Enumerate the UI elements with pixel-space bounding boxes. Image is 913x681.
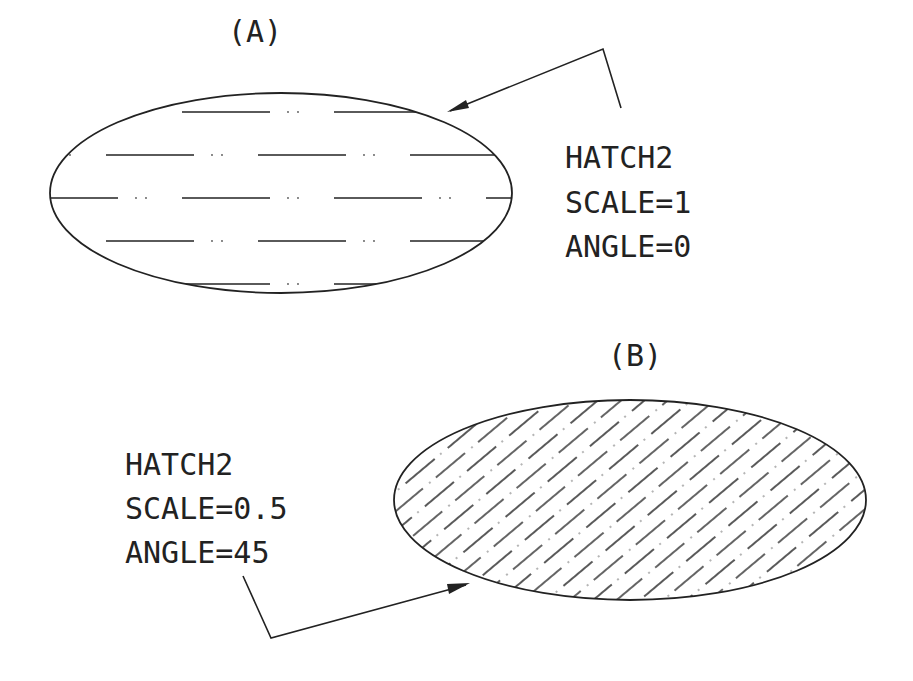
figure-b: (B) HATCH2 SCALE=0.5 ANGLE=45: [125, 338, 870, 638]
label-a: HATCH2 SCALE=1 ANGLE=0: [565, 140, 691, 264]
label-b-line-3: ANGLE=45: [125, 535, 270, 570]
hatch-fill-a: [45, 90, 520, 300]
hatch-diagram: (A) HATCH2 SCALE=1 ANGLE=0 (B) HATCH2 SC…: [0, 0, 913, 681]
label-b-line-1: HATCH2: [125, 447, 233, 482]
label-a-line-1: HATCH2: [565, 140, 673, 175]
label-b: HATCH2 SCALE=0.5 ANGLE=45: [125, 447, 288, 570]
label-a-line-3: ANGLE=0: [565, 229, 691, 264]
leader-arrow-b: [243, 576, 470, 638]
figure-a: (A) HATCH2 SCALE=1 ANGLE=0: [45, 14, 691, 300]
hatch-fill-b: [390, 395, 870, 605]
label-a-line-2: SCALE=1: [565, 185, 691, 220]
figure-b-title: (B): [608, 338, 662, 373]
leader-arrow-a: [447, 49, 621, 112]
label-b-line-2: SCALE=0.5: [125, 491, 288, 526]
figure-a-title: (A): [228, 14, 282, 49]
